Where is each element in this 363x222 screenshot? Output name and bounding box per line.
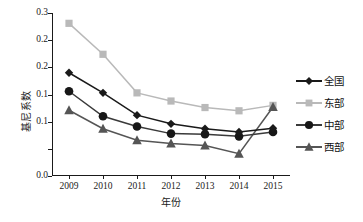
legend-label: 全国: [322, 76, 344, 87]
square-marker: [167, 97, 174, 104]
plot-area: 0.30.20.20.10.10.0 200920102011201220132…: [52, 13, 290, 176]
legend-marker-icon: [296, 118, 322, 132]
legend-swatch: [296, 74, 322, 88]
diamond-marker: [133, 111, 141, 119]
triangle-marker: [64, 105, 74, 114]
triangle-marker: [304, 142, 313, 151]
x-axis-title: 年份: [52, 194, 290, 209]
legend-marker-icon: [296, 74, 322, 88]
diamond-marker: [167, 120, 175, 128]
square-marker: [235, 107, 242, 114]
legend-label: 中部: [322, 120, 344, 131]
y-axis-title: 基尼系数: [18, 90, 33, 132]
circle-marker: [133, 122, 142, 131]
legend-label: 东部: [322, 98, 344, 109]
legend-item-西部[interactable]: 西部: [296, 136, 362, 158]
x-tick-label: 2014: [230, 181, 249, 191]
x-tick-label: 2013: [196, 181, 215, 191]
square-marker: [201, 104, 208, 111]
diamond-marker: [305, 77, 313, 85]
circle-marker: [305, 121, 313, 129]
circle-marker: [167, 129, 176, 138]
square-marker: [133, 89, 140, 96]
x-tick-label: 2010: [94, 181, 113, 191]
series-plot: [52, 13, 290, 176]
diamond-marker: [99, 89, 107, 97]
diamond-marker: [65, 69, 73, 77]
y-tick-label: 0.2: [36, 63, 48, 73]
y-tick-label: 0.0: [36, 171, 48, 181]
series-东部: [65, 20, 276, 115]
circle-marker: [65, 87, 74, 96]
legend-marker-icon: [296, 96, 322, 110]
triangle-marker: [98, 124, 108, 133]
x-tick-label: 2012: [162, 181, 181, 191]
chart-container: 基尼系数 0.30.20.20.10.10.0 2009201020112012…: [0, 0, 363, 222]
legend-item-东部[interactable]: 东部: [296, 92, 362, 114]
y-tick-label: 0.3: [36, 8, 48, 18]
y-tick-label: 0.1: [36, 117, 48, 127]
y-tick-label: 0.1: [36, 90, 48, 100]
legend-swatch: [296, 96, 322, 110]
legend-item-中部[interactable]: 中部: [296, 114, 362, 136]
y-tick: [48, 176, 52, 177]
x-tick-label: 2009: [60, 181, 79, 191]
square-marker: [306, 100, 313, 107]
series-中部: [65, 87, 278, 141]
square-marker: [99, 51, 106, 58]
legend-swatch: [296, 118, 322, 132]
legend-swatch: [296, 140, 322, 154]
chart-legend: 全国东部中部西部: [296, 70, 362, 158]
legend-marker-icon: [296, 140, 322, 154]
circle-marker: [99, 112, 108, 121]
y-tick-label: 0.2: [36, 35, 48, 45]
x-tick-label: 2015: [264, 181, 283, 191]
x-tick-label: 2011: [128, 181, 147, 191]
legend-item-全国[interactable]: 全国: [296, 70, 362, 92]
legend-label: 西部: [322, 142, 344, 153]
square-marker: [65, 20, 72, 27]
